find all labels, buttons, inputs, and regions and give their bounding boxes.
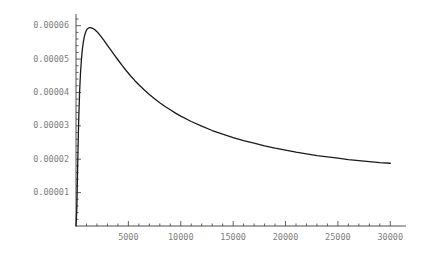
- y-tick-label: 0.00004: [33, 87, 69, 97]
- axes-group: [76, 14, 406, 226]
- y-tick-label: 0.00002: [33, 154, 69, 164]
- x-tick-label: 5000: [98, 232, 158, 242]
- plot-canvas: 0.000010.000020.000030.000040.000050.000…: [0, 0, 432, 255]
- x-tick-label: 25000: [308, 232, 368, 242]
- x-tick-label: 10000: [151, 232, 211, 242]
- x-tick-label: 20000: [256, 232, 316, 242]
- y-tick-label: 0.00005: [33, 54, 69, 64]
- data-curve: [76, 28, 390, 226]
- x-axis-ticks: [86, 221, 390, 226]
- y-tick-label: 0.00003: [33, 120, 69, 130]
- data-series-group: [76, 28, 390, 226]
- y-tick-label: 0.00001: [33, 187, 69, 197]
- y-tick-label: 0.00006: [33, 20, 69, 30]
- x-tick-label: 15000: [203, 232, 263, 242]
- x-tick-label: 30000: [360, 232, 420, 242]
